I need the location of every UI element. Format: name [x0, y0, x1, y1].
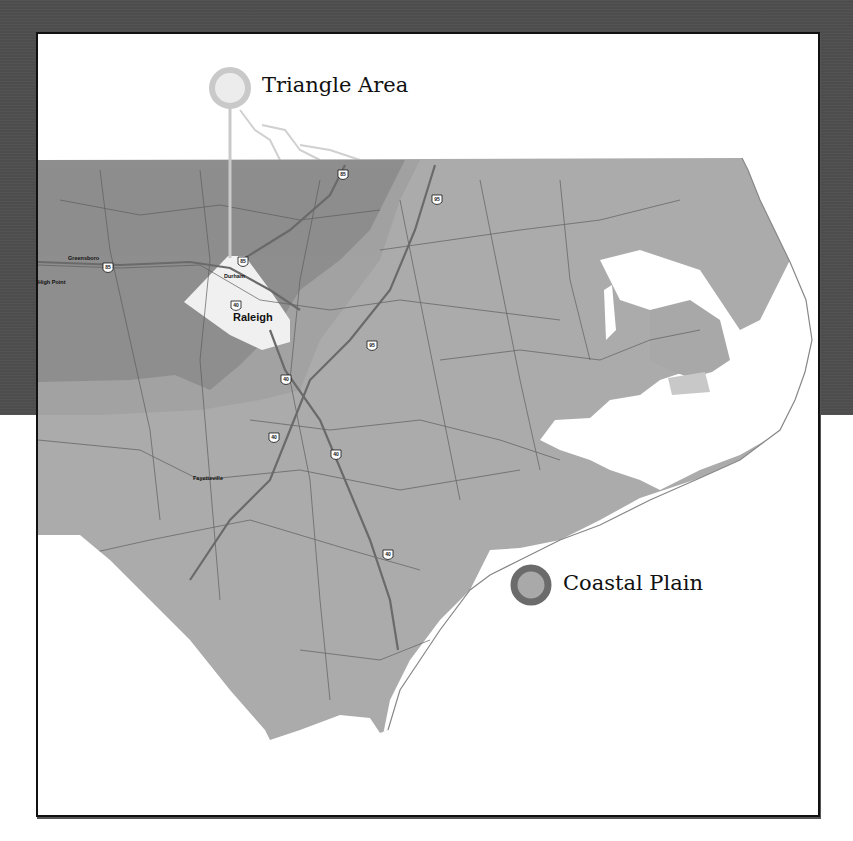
- svg-text:40: 40: [333, 451, 339, 457]
- water-rivers-north: [240, 110, 360, 160]
- triangle-area-marker-icon: [212, 70, 248, 106]
- shield-icon: 40: [383, 550, 393, 560]
- shield-icon: 40: [281, 375, 291, 385]
- svg-text:40: 40: [283, 376, 289, 382]
- svg-text:40: 40: [385, 551, 391, 557]
- coastal-plain-marker-icon: [514, 568, 548, 602]
- shield-icon: 95: [432, 195, 442, 205]
- svg-text:40: 40: [233, 302, 239, 308]
- shield-icon: 85: [338, 170, 348, 180]
- svg-text:40: 40: [271, 434, 277, 440]
- svg-text:85: 85: [240, 258, 246, 264]
- svg-text:85: 85: [105, 264, 111, 270]
- city-label-high-point: High Point: [38, 279, 66, 285]
- city-label-durham: Durham: [224, 273, 245, 279]
- svg-text:85: 85: [340, 171, 346, 177]
- shield-icon: 40: [269, 433, 279, 443]
- svg-text:95: 95: [369, 342, 375, 348]
- city-label-raleigh: Raleigh: [233, 311, 273, 323]
- triangle-area-label: Triangle Area: [262, 73, 408, 97]
- svg-text:95: 95: [434, 196, 440, 202]
- shield-icon: 40: [331, 450, 341, 460]
- city-label-greensboro: Greensboro: [68, 255, 100, 261]
- coastal-plain-label: Coastal Plain: [563, 571, 703, 595]
- city-label-fayetteville: Fayetteville: [193, 475, 223, 481]
- shield-icon: 95: [367, 341, 377, 351]
- shield-icon: 85: [238, 257, 248, 267]
- shield-icon: 40: [231, 301, 241, 311]
- nc-map: 85 95 85 85 40 95 40 40 40 40 Raleigh Du…: [0, 0, 853, 841]
- coastal-plain-callout: [514, 568, 548, 602]
- shield-icon: 85: [103, 263, 113, 273]
